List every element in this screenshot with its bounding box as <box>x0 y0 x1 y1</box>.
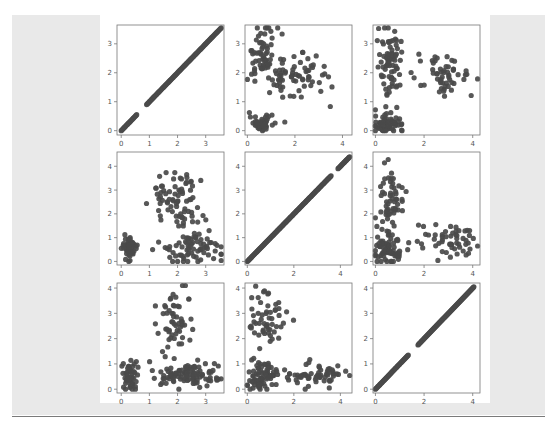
data-point <box>283 71 288 76</box>
data-point <box>373 114 378 119</box>
data-point <box>448 242 453 247</box>
data-point <box>173 253 178 258</box>
data-point <box>267 315 272 320</box>
data-point <box>327 385 332 390</box>
data-point <box>388 193 393 198</box>
data-point <box>456 242 461 247</box>
data-point <box>284 309 289 314</box>
data-point <box>261 123 266 128</box>
data-point <box>278 84 283 89</box>
data-point <box>123 257 128 262</box>
y-tick-label: 0 <box>108 127 112 135</box>
data-point <box>158 190 163 195</box>
data-point <box>259 317 264 322</box>
data-point <box>289 74 294 79</box>
data-point <box>131 375 136 380</box>
data-point <box>393 189 398 194</box>
data-point <box>274 324 279 329</box>
data-point <box>198 237 203 242</box>
data-point <box>421 224 426 229</box>
data-point <box>160 349 165 354</box>
data-point <box>256 33 261 38</box>
data-point <box>393 64 398 69</box>
data-point <box>387 74 392 79</box>
data-point <box>265 303 270 308</box>
data-point <box>121 361 126 366</box>
y-tick-label: 1 <box>108 360 112 368</box>
data-point <box>152 376 157 381</box>
data-point <box>381 248 386 253</box>
data-point <box>275 372 280 377</box>
data-point <box>197 385 202 390</box>
x-tick-label: 2 <box>175 140 179 148</box>
data-point <box>270 36 275 41</box>
data-point <box>156 240 161 245</box>
data-point <box>456 72 461 77</box>
data-point <box>168 204 173 209</box>
data-point <box>185 259 190 264</box>
data-point <box>373 248 378 253</box>
data-point <box>158 382 163 387</box>
data-point <box>171 314 176 319</box>
data-point <box>214 375 219 380</box>
data-point <box>309 63 314 68</box>
data-point <box>295 380 300 385</box>
x-tick-label: 2 <box>292 398 296 406</box>
data-point <box>172 336 177 341</box>
data-point <box>251 386 256 391</box>
data-point <box>183 365 188 370</box>
data-point <box>449 80 454 85</box>
y-tick-label: 0 <box>364 386 368 394</box>
y-tick-label: 1 <box>236 234 240 242</box>
data-point <box>203 217 208 222</box>
y-tick-label: 3 <box>108 40 112 48</box>
data-point <box>277 313 282 318</box>
data-point <box>254 120 259 125</box>
data-point <box>373 120 378 125</box>
x-tick-label: 2 <box>422 140 426 148</box>
y-tick-label: 1 <box>364 234 368 242</box>
data-point <box>273 302 278 307</box>
scatter-panel-1-2: 01234024 <box>364 152 481 278</box>
data-point <box>203 376 208 381</box>
data-point <box>188 197 193 202</box>
data-point <box>208 375 213 380</box>
data-point <box>378 209 383 214</box>
data-point <box>174 243 179 248</box>
data-point <box>121 385 126 390</box>
data-point <box>168 297 173 302</box>
data-point <box>381 41 386 46</box>
data-point <box>435 258 440 263</box>
data-point <box>171 292 176 297</box>
data-point <box>382 25 387 30</box>
y-tick-label: 3 <box>108 310 112 318</box>
data-point <box>194 375 199 380</box>
data-point <box>266 25 271 30</box>
data-point <box>174 219 179 224</box>
data-point <box>204 383 209 388</box>
data-point <box>396 257 401 262</box>
data-point <box>266 331 271 336</box>
data-point <box>251 319 256 324</box>
data-point <box>265 116 270 121</box>
data-point <box>256 333 261 338</box>
data-point <box>185 378 190 383</box>
data-point <box>257 346 262 351</box>
x-tick-label: 4 <box>338 398 343 406</box>
data-point <box>386 53 391 58</box>
data-point <box>195 220 200 225</box>
data-point <box>322 64 327 69</box>
data-point <box>394 52 399 57</box>
data-point <box>252 50 257 55</box>
data-point <box>127 377 132 382</box>
data-point <box>167 244 172 249</box>
data-point <box>178 175 183 180</box>
data-point <box>156 331 161 336</box>
data-point <box>264 324 269 329</box>
data-point <box>383 87 388 92</box>
data-point <box>456 228 461 233</box>
data-point <box>179 341 184 346</box>
data-point <box>265 50 270 55</box>
data-point <box>388 116 393 121</box>
data-point <box>259 46 264 51</box>
